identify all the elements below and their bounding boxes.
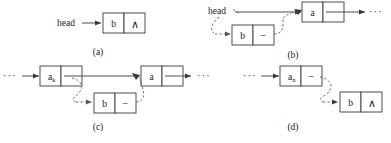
node-b-d: b ∧ (340, 92, 382, 112)
head-label-b: head (208, 6, 226, 16)
node-b-null-d: ∧ (368, 97, 376, 109)
caption-c: (c) (93, 122, 104, 133)
node-b-data-a: b (111, 19, 116, 29)
head-solid-arrow-b (235, 9, 301, 14)
node-b-data-b: b (240, 31, 245, 41)
node-ak-c: ak (40, 66, 82, 86)
panel-c: ··· ak a (0, 60, 196, 143)
left-ellipsis-d: ··· (243, 70, 257, 81)
node-b-data-c: b (102, 99, 107, 109)
node-b-pointer-b: – (260, 30, 266, 40)
node-b-pointer-c: – (122, 98, 128, 108)
node-b-null-a: ∧ (131, 18, 139, 30)
panel-d: ··· ··· an – b (195, 60, 391, 143)
node-b-c: b – (94, 93, 136, 113)
out-arrow-c (183, 73, 191, 78)
caption-a: (a) (93, 47, 104, 58)
node-a-c: a (141, 66, 183, 86)
right-ellipsis-b: ··· (369, 6, 383, 17)
node-b-b: b – (232, 25, 274, 45)
left-edge-ellipsis-d: ··· (197, 70, 211, 81)
left-ellipsis-c: ··· (3, 70, 17, 81)
tail-arrow-b (344, 9, 365, 14)
caption-d: (d) (287, 122, 298, 133)
node-a-b: a (302, 2, 344, 22)
head-label-a: head (57, 18, 75, 28)
in-arrow-c (22, 73, 39, 78)
in-arrow-d (261, 73, 279, 78)
solid-link-ak-to-a-c (82, 73, 140, 80)
node-b-a: b ∧ (103, 13, 145, 33)
dashed-head-to-b (212, 17, 231, 37)
dashed-b-to-a (274, 9, 302, 34)
node-an-pointer-d: – (308, 71, 314, 81)
node-b-data-d: b (348, 98, 353, 108)
node-an-d: an – (280, 66, 322, 86)
linked-list-figure: head b ∧ (a) head (0, 0, 391, 143)
head-arrow-a (82, 20, 101, 25)
dashed-an-to-b (320, 77, 338, 105)
